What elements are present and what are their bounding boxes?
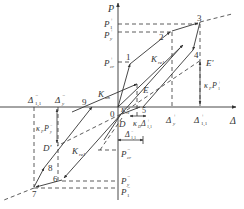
svg-text:re: re [126, 110, 129, 115]
point-D-prime: D' [42, 143, 52, 153]
svg-text:y: y [172, 121, 176, 126]
delta-span-label: Δ − 1,1 [124, 129, 136, 141]
point-3: 3 [197, 13, 202, 23]
svg-text:P: P [103, 19, 110, 29]
svg-text:re1: re1 [158, 60, 164, 65]
svg-text:κ: κ [36, 124, 40, 133]
x-tick-dy-neg: Δ − y [54, 93, 65, 106]
svg-text:P: P [103, 58, 110, 68]
svg-text:−: − [50, 123, 53, 128]
svg-text:Δ: Δ [193, 115, 199, 125]
y-axis-label: P [107, 3, 114, 14]
svg-text:+: + [173, 113, 176, 118]
svg-text:+: + [110, 17, 113, 22]
x-tick-d1-pos: Δ + 1,1 [193, 113, 208, 127]
svg-text:P: P [120, 176, 127, 186]
hysteresis-diagram: P Δ 0 P + 1 P + y P + cr P − cr P − y P … [0, 0, 244, 209]
svg-text:1,1: 1,1 [147, 124, 152, 130]
kappa-d-label: κ D Δ + 1,1 [133, 118, 152, 130]
svg-text:y: y [109, 36, 113, 41]
svg-text:K: K [150, 54, 158, 64]
svg-text:κ: κ [133, 119, 137, 128]
svg-text:+: + [110, 28, 113, 33]
svg-text:κ: κ [204, 81, 208, 90]
point-6: 6 [53, 174, 58, 184]
svg-text:1,1: 1,1 [201, 121, 208, 127]
svg-text:1,1: 1,1 [35, 101, 42, 107]
svg-text:Δ: Δ [124, 130, 130, 139]
svg-text:−: − [62, 93, 65, 98]
kappa-p-pos-label: κ P P + 1 [204, 80, 221, 91]
svg-text:y: y [49, 129, 52, 134]
svg-text:+: + [110, 56, 113, 61]
svg-text:re1: re1 [79, 152, 85, 157]
svg-text:y: y [61, 101, 65, 106]
svg-text:Δ: Δ [165, 115, 171, 125]
point-E: E [142, 85, 149, 95]
svg-text:K: K [71, 146, 79, 156]
svg-text:P: P [103, 30, 110, 40]
point-4: 4 [194, 50, 199, 60]
point-7: 7 [32, 189, 37, 199]
k-re1-pos-label: K re1 [150, 54, 164, 65]
svg-text:Δ: Δ [54, 95, 60, 105]
svg-text:1: 1 [127, 193, 130, 198]
y-tick-pcr-neg: P − cr [120, 147, 131, 160]
point-9: 9 [82, 97, 87, 107]
svg-text:cr: cr [110, 64, 114, 69]
x-axis-label: Δ [229, 115, 236, 126]
svg-text:P: P [43, 124, 49, 133]
svg-text:cr: cr [127, 155, 131, 160]
y-tick-py-pos: P + y [103, 28, 113, 41]
svg-text:K: K [97, 89, 105, 99]
svg-text:Δ: Δ [140, 119, 146, 128]
x-tick-d1-neg: Δ − 1,1 [27, 93, 42, 107]
svg-text:−: − [35, 93, 38, 98]
y-tick-pcr-pos: P + cr [103, 56, 114, 69]
point-1: 1 [126, 52, 131, 62]
svg-text:−: − [127, 147, 130, 152]
svg-text:un: un [105, 95, 111, 100]
svg-text:Δ: Δ [27, 95, 33, 105]
svg-text:+: + [147, 118, 150, 123]
k-un-label: K un [97, 89, 111, 100]
x-tick-dy-pos: Δ + y [165, 113, 176, 126]
svg-text:+: + [218, 80, 221, 85]
svg-text:−: − [131, 129, 134, 134]
point-2: 2 [159, 32, 164, 42]
origin-label: 0 [110, 109, 115, 119]
svg-text:−: − [127, 174, 130, 179]
y-tick-p1-neg: P − 1 [120, 185, 130, 198]
point-5: 5 [142, 106, 146, 115]
point-8: 8 [48, 163, 53, 173]
point-D: D [118, 119, 126, 129]
svg-text:−: − [127, 185, 130, 190]
svg-text:+: + [201, 113, 204, 118]
svg-text:P: P [120, 187, 127, 197]
kappa-p-neg-label: κ P P − y [36, 123, 53, 134]
k-re1-neg-label: K re1 [71, 146, 85, 157]
point-E-prime: E' [205, 58, 214, 68]
svg-text:1: 1 [218, 86, 220, 91]
svg-text:P: P [120, 149, 127, 159]
svg-text:P: P [211, 81, 217, 90]
